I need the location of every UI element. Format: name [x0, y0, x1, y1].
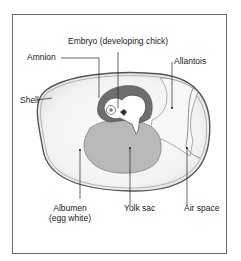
- label-shell: Shell: [20, 95, 39, 105]
- label-albumen: Albumen (egg white): [45, 203, 95, 223]
- yolk-sac-icon: [84, 120, 161, 173]
- label-allantois: Allantois: [174, 56, 206, 66]
- label-air-space: Air space: [184, 203, 219, 213]
- label-embryo: Embryo (developing chick): [68, 36, 168, 46]
- label-amnion: Amnion: [27, 52, 56, 62]
- label-albumen-line2: (egg white): [45, 213, 95, 223]
- label-yolk-sac: Yolk sac: [124, 203, 155, 213]
- label-albumen-line1: Albumen: [45, 203, 95, 213]
